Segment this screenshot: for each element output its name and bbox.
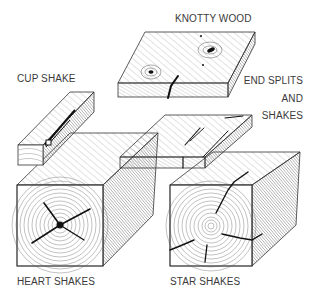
label-heart-shakes: HEART SHAKES [17,276,95,287]
label-end-splits-line1: END SPLITS [244,75,303,86]
wood-defects-illustration [0,0,317,302]
knotty-wood-board [118,32,255,98]
label-cup-shake: CUP SHAKE [17,73,76,84]
label-star-shakes: STAR SHAKES [170,276,240,287]
label-knotty-wood: KNOTTY WOOD [175,13,251,24]
star-shakes-block [166,152,300,271]
label-end-splits-line2: AND [282,93,303,104]
label-end-splits-line3: SHAKES [262,110,303,121]
